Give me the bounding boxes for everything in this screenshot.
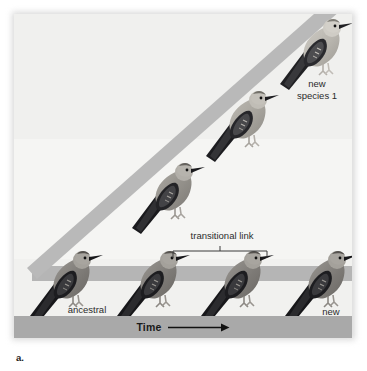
time-axis-bar: Time xyxy=(14,316,352,338)
transitional-link-label: transitional link xyxy=(174,230,270,241)
time-axis-label: Time xyxy=(136,321,161,333)
new-species-1-label: new species 1 xyxy=(286,78,348,101)
bird-glyph xyxy=(132,163,205,234)
bird-glyph xyxy=(206,91,279,162)
figure-caption: a. xyxy=(16,352,24,363)
time-axis-label-group: Time xyxy=(14,316,352,338)
figure-panel: transitional link ancestral species new … xyxy=(14,14,352,338)
diagonal-lineage-bird-2 xyxy=(202,78,280,164)
transitional-link-bracket xyxy=(172,246,268,259)
right-arrow-icon xyxy=(168,323,230,332)
evolution-figure: transitional link ancestral species new … xyxy=(0,0,367,371)
diagonal-lineage-bird-1 xyxy=(128,150,206,236)
bird-glyph xyxy=(201,251,274,322)
bird-glyph xyxy=(117,251,190,322)
